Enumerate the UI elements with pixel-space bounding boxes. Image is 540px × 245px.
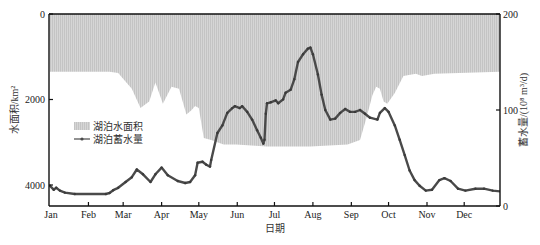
data-point-marker bbox=[149, 181, 151, 183]
data-point-marker bbox=[379, 112, 381, 114]
x-tick-label: Jul bbox=[269, 209, 281, 220]
data-point-marker bbox=[501, 190, 503, 192]
data-point-marker bbox=[483, 188, 485, 190]
data-point-marker bbox=[275, 99, 277, 101]
x-tick-label: Mar bbox=[115, 209, 132, 220]
x-axis: JanFebMarAprMayJunJulAugSepOctNovDec bbox=[44, 202, 472, 220]
data-point-marker bbox=[438, 179, 440, 181]
legend: 湖泊水面积 湖泊蓄水量 bbox=[74, 121, 143, 145]
data-point-marker bbox=[394, 124, 396, 126]
data-point-marker bbox=[443, 177, 445, 179]
legend-line-marker bbox=[80, 137, 83, 140]
data-point-marker bbox=[167, 174, 169, 176]
data-point-marker bbox=[324, 109, 326, 111]
data-point-marker bbox=[312, 53, 314, 55]
right-tick-label: 100 bbox=[503, 105, 518, 116]
data-point-marker bbox=[262, 142, 264, 144]
legend-area-swatch bbox=[74, 122, 90, 130]
x-tick-label: Oct bbox=[381, 209, 396, 220]
data-point-marker bbox=[216, 132, 218, 134]
data-point-marker bbox=[293, 78, 295, 80]
data-point-marker bbox=[449, 180, 451, 182]
data-point-marker bbox=[425, 189, 427, 191]
x-tick-label: Nov bbox=[418, 209, 435, 220]
left-tick-label: 0 bbox=[40, 9, 45, 20]
data-point-marker bbox=[263, 139, 265, 141]
data-point-marker bbox=[344, 108, 346, 110]
data-point-marker bbox=[418, 185, 420, 187]
data-point-marker bbox=[124, 181, 126, 183]
data-point-marker bbox=[205, 164, 207, 166]
data-point-marker bbox=[399, 139, 401, 141]
data-point-marker bbox=[404, 154, 406, 156]
data-point-marker bbox=[136, 168, 138, 170]
data-point-marker bbox=[239, 107, 241, 109]
legend-area-label: 湖泊水面积 bbox=[93, 121, 143, 132]
data-point-marker bbox=[53, 189, 55, 191]
x-tick-label: Apr bbox=[154, 209, 170, 220]
data-point-marker bbox=[364, 113, 366, 115]
left-tick-label: 2000 bbox=[25, 94, 45, 105]
x-tick-label: Jun bbox=[230, 209, 244, 220]
data-point-marker bbox=[231, 107, 233, 109]
data-point-marker bbox=[492, 189, 494, 191]
data-point-marker bbox=[64, 191, 66, 193]
right-tick-label: 200 bbox=[503, 9, 518, 20]
left-tick-label: 4000 bbox=[25, 180, 45, 191]
data-point-marker bbox=[234, 105, 236, 107]
data-point-marker bbox=[354, 111, 356, 113]
data-point-marker bbox=[282, 98, 284, 100]
x-tick-label: May bbox=[190, 209, 208, 220]
data-point-marker bbox=[277, 102, 279, 104]
data-point-marker bbox=[108, 192, 110, 194]
data-point-marker bbox=[221, 124, 223, 126]
x-tick-label: Dec bbox=[456, 209, 473, 220]
data-point-marker bbox=[117, 187, 119, 189]
data-point-marker bbox=[334, 117, 336, 119]
data-point-marker bbox=[55, 187, 57, 189]
x-tick-label: Feb bbox=[81, 209, 96, 220]
data-point-marker bbox=[189, 181, 191, 183]
data-point-marker bbox=[112, 189, 114, 191]
data-point-marker bbox=[160, 166, 162, 168]
data-point-marker bbox=[339, 112, 341, 114]
data-point-marker bbox=[413, 179, 415, 181]
data-point-marker bbox=[210, 159, 212, 161]
data-point-marker bbox=[184, 182, 186, 184]
data-point-marker bbox=[284, 92, 286, 94]
data-point-marker bbox=[256, 129, 258, 131]
data-point-marker bbox=[265, 113, 267, 115]
data-point-marker bbox=[59, 189, 61, 191]
data-point-marker bbox=[251, 118, 253, 120]
data-point-marker bbox=[384, 107, 386, 109]
data-point-marker bbox=[408, 169, 410, 171]
data-point-marker bbox=[105, 193, 107, 195]
data-point-marker bbox=[177, 180, 179, 182]
data-point-marker bbox=[309, 46, 311, 48]
data-point-marker bbox=[302, 53, 304, 55]
x-tick-label: Aug bbox=[304, 209, 321, 220]
data-point-marker bbox=[131, 176, 133, 178]
data-point-marker bbox=[270, 101, 272, 103]
data-point-marker bbox=[246, 111, 248, 113]
left-axis-title: 水面积/km² bbox=[9, 86, 20, 135]
data-point-marker bbox=[154, 173, 156, 175]
data-point-marker bbox=[369, 117, 371, 119]
data-point-marker bbox=[266, 102, 268, 104]
data-point-marker bbox=[201, 161, 203, 163]
x-axis-title: 日期 bbox=[265, 223, 285, 234]
data-point-marker bbox=[307, 47, 309, 49]
data-point-marker bbox=[329, 118, 331, 120]
right-tick-label: 0 bbox=[503, 201, 508, 212]
data-point-marker bbox=[376, 118, 378, 120]
data-point-marker bbox=[464, 189, 466, 191]
data-point-marker bbox=[196, 162, 198, 164]
data-point-marker bbox=[320, 93, 322, 95]
data-point-marker bbox=[387, 111, 389, 113]
data-point-marker bbox=[317, 73, 319, 75]
data-point-marker bbox=[297, 61, 299, 63]
data-point-marker bbox=[289, 89, 291, 91]
data-point-marker bbox=[74, 193, 76, 195]
x-tick-label: Jan bbox=[44, 209, 57, 220]
chart: 020004000 0100200 JanFebMarAprMayJunJulA… bbox=[0, 0, 540, 245]
